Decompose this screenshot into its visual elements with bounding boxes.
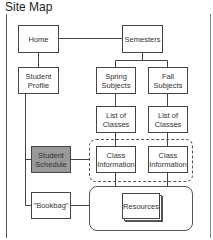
- node-student-profile[interactable]: Student Profile: [18, 67, 59, 94]
- node-fall-subjects[interactable]: Fall Subjects: [148, 67, 188, 94]
- node-list-of-classes-fall[interactable]: List of Classes: [148, 106, 188, 133]
- node-class-information-spring[interactable]: Class Information: [96, 146, 136, 173]
- node-class-information-fall[interactable]: Class Information: [148, 146, 188, 173]
- node-home[interactable]: Home: [18, 25, 59, 53]
- node-list-of-classes-spring[interactable]: List of Classes: [96, 106, 136, 133]
- node-resources[interactable]: Resources: [122, 193, 160, 219]
- node-semesters[interactable]: Semesters: [122, 25, 163, 53]
- node-student-schedule[interactable]: Student Schedule: [31, 146, 71, 173]
- node-bookbag[interactable]: "Bookbag": [31, 192, 71, 219]
- node-spring-subjects[interactable]: Spring Subjects: [96, 67, 136, 94]
